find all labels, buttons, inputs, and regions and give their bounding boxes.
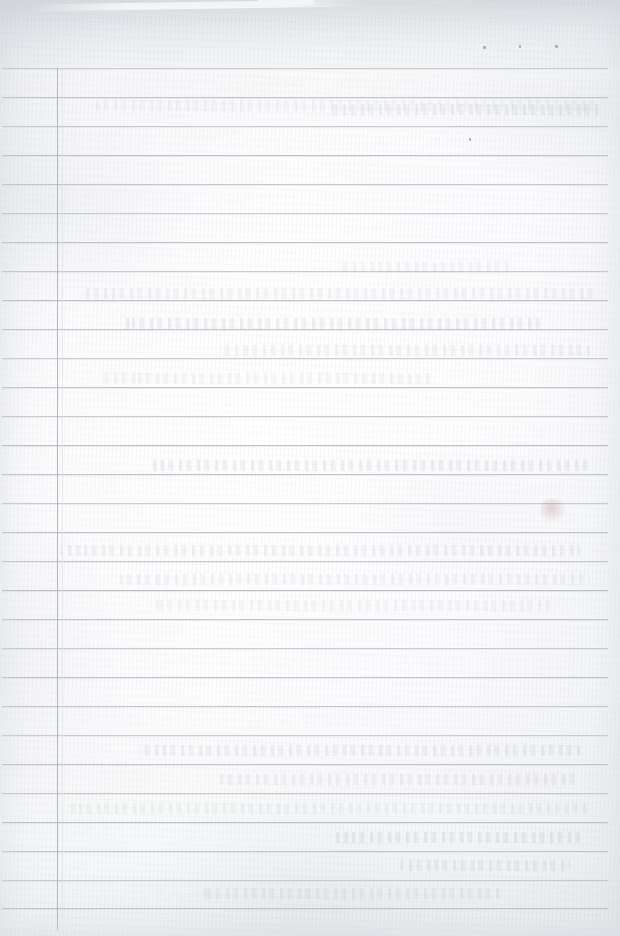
rule-line bbox=[2, 300, 608, 301]
smudge-right-mid bbox=[540, 498, 566, 522]
rule-line bbox=[2, 271, 608, 272]
rule-line bbox=[2, 648, 608, 649]
speck-4 bbox=[469, 138, 471, 141]
rule-line bbox=[2, 735, 608, 736]
rule-line bbox=[2, 68, 608, 69]
rule-line bbox=[2, 851, 608, 852]
rule-line bbox=[2, 242, 608, 243]
rule-line bbox=[2, 213, 608, 214]
rule-line bbox=[2, 184, 608, 185]
rule-line bbox=[2, 822, 608, 823]
paper-blotches bbox=[0, 0, 620, 936]
top-edge-notch bbox=[258, 0, 314, 5]
rule-line bbox=[2, 561, 608, 562]
rule-line bbox=[2, 880, 608, 881]
rule-line bbox=[2, 706, 608, 707]
rule-line bbox=[2, 387, 608, 388]
scanned-page bbox=[0, 0, 620, 936]
rule-line bbox=[2, 503, 608, 504]
rule-line bbox=[2, 619, 608, 620]
rule-line bbox=[2, 590, 608, 591]
rule-line bbox=[2, 97, 608, 98]
vertical-margin-rule bbox=[57, 68, 58, 930]
rule-line bbox=[2, 329, 608, 330]
rule-line bbox=[2, 677, 608, 678]
speck-1 bbox=[483, 46, 486, 49]
rule-line bbox=[2, 416, 608, 417]
vertical-margin-rule-faint bbox=[62, 68, 63, 918]
rule-line bbox=[2, 764, 608, 765]
rule-line bbox=[2, 908, 608, 909]
speck-2 bbox=[519, 45, 521, 48]
speck-3 bbox=[555, 45, 558, 48]
rule-line bbox=[2, 445, 608, 446]
rule-line bbox=[2, 793, 608, 794]
rule-line bbox=[2, 126, 608, 127]
rule-line bbox=[2, 532, 608, 533]
rule-line bbox=[2, 474, 608, 475]
rule-line bbox=[2, 155, 608, 156]
rule-line bbox=[2, 358, 608, 359]
